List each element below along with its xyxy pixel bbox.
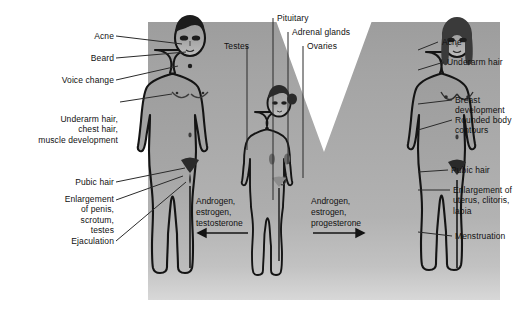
label-male-acne: Acne [4, 31, 114, 41]
label-male-beard: Beard [4, 53, 114, 63]
label-female-enlargement: Enlargement of uterus, clitoris, labia [453, 185, 529, 216]
hormone-text-female: Androgen, estrogen, progesterone [311, 196, 381, 229]
label-female-underarm-hair: Underarm hair [447, 57, 529, 67]
label-male-voice-change: Voice change [4, 75, 114, 85]
label-adrenal-glands: Adrenal glands [292, 27, 376, 37]
label-male-pubic-hair: Pubic hair [4, 177, 114, 187]
label-male-enlargement: Enlargement of penis, scrotum, testes [4, 194, 114, 236]
label-female-rounded-body-contours: Rounded body contours [455, 115, 529, 136]
label-female-acne: Acne [442, 37, 528, 47]
label-female-breast-development: Breast development [455, 95, 529, 116]
puberty-diagram: Acne Beard Voice change Underarm hair, c… [0, 0, 529, 319]
hormone-text-male: Androgen, estrogen, testosterone [196, 196, 262, 229]
label-pituitary: Pituitary [277, 13, 337, 23]
label-male-ejaculation: Ejaculation [4, 236, 114, 246]
label-female-menstruation: Menstruation [455, 231, 529, 241]
label-ovaries: Ovaries [307, 41, 367, 51]
label-testes: Testes [224, 41, 270, 51]
label-male-underarm-hair: Underarm hair, chest hair, muscle develo… [4, 114, 118, 145]
label-female-pubic-hair: Pubic hair [451, 165, 529, 175]
